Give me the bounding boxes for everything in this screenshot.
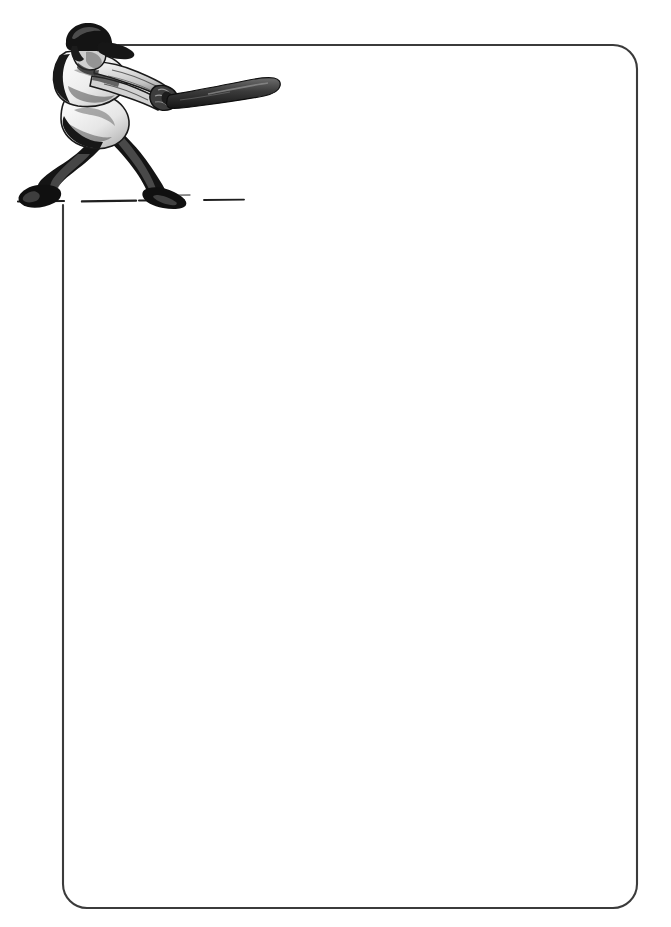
rear-leg [18, 138, 100, 208]
baseball-bat [161, 78, 281, 109]
writing-area[interactable] [70, 215, 630, 900]
stationery-page [0, 0, 671, 927]
baseball-batter-illustration [8, 18, 288, 218]
